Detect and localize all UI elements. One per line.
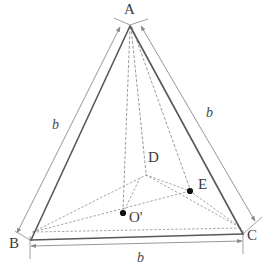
vertex-label-e: E (198, 177, 207, 192)
construction-line-de (146, 175, 190, 191)
dimension-ab-ext-a (114, 18, 130, 25)
dimension-ac (130, 19, 262, 234)
triangle-abc (31, 26, 243, 240)
dimension-ab (15, 18, 130, 240)
vertex-label-d: D (148, 150, 159, 165)
construction-line-dc (146, 175, 241, 228)
vertex-label-o-prime: O' (129, 210, 143, 225)
length-label-bc: b (137, 251, 144, 265)
vertex-label-c: C (247, 228, 257, 243)
construction-line-od (123, 178, 140, 213)
vertex-label-b: B (9, 236, 19, 251)
construction-line-ec (190, 191, 241, 228)
point-dot-e (187, 188, 193, 194)
figure-canvas (0, 0, 274, 277)
dimension-ab-line (17, 27, 120, 233)
dimension-bc-line (31, 241, 242, 246)
dimension-ac-ext-a (130, 19, 148, 25)
dashed-line-a-to-o (123, 27, 130, 211)
edge-ac (130, 26, 243, 234)
edge-ab (31, 26, 130, 240)
length-label-ac: b (206, 106, 213, 120)
length-label-ab: b (52, 118, 59, 132)
dashed-line-a-to-d (131, 27, 146, 173)
vertex-label-a: A (124, 2, 135, 17)
construction-line-be (33, 191, 190, 232)
construction-line-bc-inner (33, 228, 241, 232)
geometry-figure: A B C D E O' b b b (0, 0, 274, 277)
edge-bc (31, 234, 243, 240)
point-dot-o-prime (120, 210, 126, 216)
dashed-line-a-to-e (132, 27, 190, 189)
